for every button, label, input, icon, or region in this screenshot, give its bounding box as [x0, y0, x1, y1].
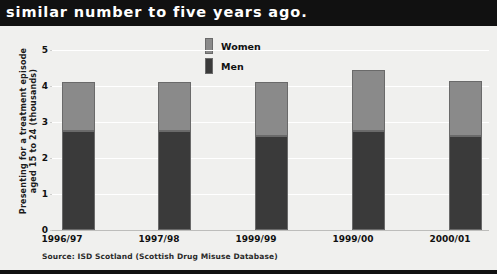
x-tick-label-1: 1997/98: [124, 234, 194, 244]
y-axis-ticks: 5 4 3 2 1 0: [30, 50, 48, 230]
bar-segment-women-2[interactable]: [255, 82, 288, 136]
y-tick-label-5: 5: [34, 46, 48, 55]
page-title: similar number to five years ago.: [6, 4, 308, 20]
bar-segment-men-1[interactable]: [158, 131, 191, 230]
y-tick-label-1: 1: [34, 190, 48, 199]
chart-page: similar number to five years ago. Women …: [0, 0, 497, 274]
headline-band: similar number to five years ago.: [0, 0, 497, 26]
y-tick-label-4: 4: [34, 82, 48, 91]
chart-area: Women Men Presenting for a treatment epi…: [0, 26, 497, 248]
bar-segment-women-3[interactable]: [352, 70, 385, 131]
bar-segment-women-0[interactable]: [62, 82, 95, 131]
bar-segment-men-2[interactable]: [255, 136, 288, 230]
bar-segment-men-4[interactable]: [449, 136, 482, 230]
bottom-rule: [0, 270, 497, 274]
bar-segment-men-3[interactable]: [352, 131, 385, 230]
plot-area: [52, 50, 489, 230]
y-tick-label-3: 3: [34, 118, 48, 127]
bar-segment-women-1[interactable]: [158, 82, 191, 131]
x-tick-label-3: 1999/00: [318, 234, 388, 244]
source-text: Source: ISD Scotland (Scottish Drug Misu…: [42, 252, 278, 261]
x-tick-label-4: 2000/01: [415, 234, 485, 244]
x-tick-label-0: 1996/97: [27, 234, 97, 244]
bar-segment-women-4[interactable]: [449, 81, 482, 137]
gridline-5: [52, 50, 489, 51]
x-axis-baseline: [52, 230, 489, 231]
y-tick-label-2: 2: [34, 154, 48, 163]
x-tick-label-2: 1999/99: [221, 234, 291, 244]
bar-segment-men-0[interactable]: [62, 131, 95, 230]
